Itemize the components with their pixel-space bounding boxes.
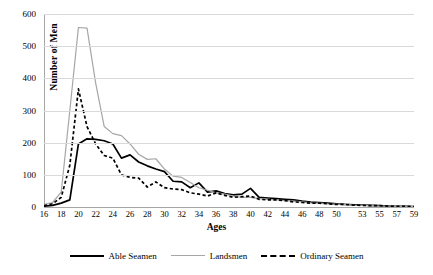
gridline [44,78,414,79]
plot-area [44,14,414,207]
y-axis-tick-label: 600 [0,9,36,19]
x-axis-title: Ages [0,222,433,232]
y-axis-tick-label: 200 [0,138,36,148]
legend-label: Ordinary Seamen [300,251,363,261]
x-axis-line [44,207,414,208]
y-axis-tick-label: 100 [0,170,36,180]
series-line [44,139,414,207]
gridline [44,111,414,112]
y-axis-tick-label: 0 [0,202,36,212]
legend-label: Able Seamen [109,251,157,261]
y-axis-tick-label: 400 [0,73,36,83]
gridline [44,46,414,47]
gridline [44,143,414,144]
series-line [44,89,414,207]
y-axis-tick-label: 500 [0,41,36,51]
legend-label: Landsmen [210,251,248,261]
legend-swatch-icon [171,251,205,261]
legend-item[interactable]: Able Seamen [70,251,157,261]
x-axis-tick-label: 50 [325,209,349,220]
y-axis-tick-label: 300 [0,106,36,116]
gridline [44,14,414,15]
gridline [44,175,414,176]
legend-item[interactable]: Ordinary Seamen [261,251,363,261]
x-axis-tick-label: 59 [402,209,426,220]
legend-swatch-icon [261,251,295,261]
legend-item[interactable]: Landsmen [171,251,248,261]
legend-swatch-icon [70,251,104,261]
chart-container: Number of Men 0100200300400500600 161820… [0,0,433,275]
series-line [44,28,414,207]
chart-legend: Able SeamenLandsmenOrdinary Seamen [0,251,433,261]
